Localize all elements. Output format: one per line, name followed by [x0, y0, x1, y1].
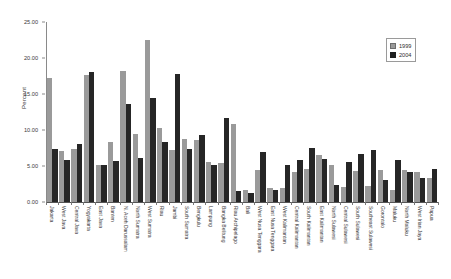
- x-axis-tick-mark: [58, 202, 59, 205]
- x-axis-category-label: Central Sulawesi: [343, 206, 349, 244]
- bar-group: [83, 22, 95, 202]
- x-axis-category-label: East Java: [98, 206, 104, 228]
- x-axis-label-cell: Riau Archipelago: [230, 206, 242, 276]
- y-axis-tick-mark: [42, 202, 45, 203]
- bar-2004: [236, 191, 241, 202]
- bar-2004: [297, 160, 302, 202]
- bar-group: [279, 22, 291, 202]
- x-axis-category-label: Lampung: [208, 206, 214, 227]
- x-axis-label-cell: Lampung: [205, 206, 217, 276]
- x-axis-category-label: Maluku: [392, 206, 398, 222]
- y-axis-tick-label: 5.00: [27, 163, 38, 169]
- x-axis-label-cell: Central Java: [71, 206, 83, 276]
- y-axis-tick-mark: [42, 22, 45, 23]
- bar-2004: [346, 162, 351, 202]
- x-axis-tick-mark: [303, 202, 304, 205]
- bar-2004: [224, 118, 229, 202]
- chart-legend: 1999 2004: [386, 38, 416, 62]
- y-axis-tick-mark: [42, 58, 45, 59]
- x-axis-category-label: Riau Archipelago: [233, 206, 239, 244]
- x-axis-category-label: North Maluku: [404, 206, 410, 236]
- legend-item-1999: 1999: [390, 41, 411, 50]
- x-axis-label-cell: South Sulawesi: [352, 206, 364, 276]
- bar-2004: [138, 158, 143, 202]
- x-axis-label-cell: Central Kalimantan: [291, 206, 303, 276]
- y-axis-tick-mark: [42, 130, 45, 131]
- x-axis-tick-mark: [279, 202, 280, 205]
- x-axis-tick-mark: [95, 202, 96, 205]
- y-axis-tick-mark: [42, 166, 45, 167]
- x-axis-label-cell: South Kalimantan: [303, 206, 315, 276]
- bar-group: [328, 22, 340, 202]
- bar-group: [242, 22, 254, 202]
- bar-2004: [150, 98, 155, 202]
- bar-group: [291, 22, 303, 202]
- bar-group: [181, 22, 193, 202]
- bar-2004: [126, 104, 131, 202]
- x-axis-tick-mark: [401, 202, 402, 205]
- bar-2004: [420, 178, 425, 202]
- bar-2004: [407, 172, 412, 202]
- x-axis-tick-mark: [144, 202, 145, 205]
- x-axis-category-label: Central Java: [74, 206, 80, 234]
- x-axis-tick-mark: [414, 202, 415, 205]
- bar-2004: [64, 160, 69, 202]
- bar-group: [340, 22, 352, 202]
- y-axis-tick-label: 10.00: [24, 127, 38, 133]
- bar-2004: [77, 144, 82, 202]
- bar-2004: [383, 180, 388, 202]
- x-axis-tick-mark: [107, 202, 108, 205]
- legend-swatch-2004-icon: [390, 52, 396, 58]
- bar-group: [230, 22, 242, 202]
- x-axis-tick-mark: [156, 202, 157, 205]
- bar-2004: [322, 159, 327, 202]
- x-axis-label-cell: East Nusa Tenggara: [267, 206, 279, 276]
- x-axis-tick-mark: [218, 202, 219, 205]
- x-axis-label-cell: South Sumatra: [181, 206, 193, 276]
- bar-group: [267, 22, 279, 202]
- x-axis-category-label: West Irian Jaya: [417, 206, 423, 240]
- x-axis-category-label: West Sumatra: [147, 206, 153, 238]
- bar-2004: [199, 135, 204, 202]
- x-axis-tick-mark: [340, 202, 341, 205]
- bar-2004: [285, 165, 290, 202]
- x-axis-label-cell: Bangka Belitung: [218, 206, 230, 276]
- x-axis-label-cell: Gorontalo: [377, 206, 389, 276]
- bar-series-container: [46, 22, 438, 202]
- x-axis-tick-mark: [389, 202, 390, 205]
- x-axis-tick-mark: [316, 202, 317, 205]
- bar-2004: [101, 165, 106, 202]
- bar-2004: [211, 165, 216, 202]
- x-axis-category-label: Gorontalo: [380, 206, 386, 228]
- x-axis-category-label: East Kalimantan: [319, 206, 325, 242]
- x-axis-category-label: West Nusa Tenggara: [257, 206, 263, 253]
- x-axis-category-label: North Sumatra: [135, 206, 141, 239]
- x-axis-tick-mark: [377, 202, 378, 205]
- bar-group: [316, 22, 328, 202]
- bar-group: [58, 22, 70, 202]
- x-axis-label-cell: Central Sulawesi: [340, 206, 352, 276]
- legend-swatch-1999-icon: [390, 43, 396, 49]
- legend-label-2004: 2004: [399, 52, 411, 58]
- bar-group: [193, 22, 205, 202]
- x-axis-category-labels: JakartaWest JavaCentral JavaYogyakartaEa…: [46, 206, 438, 276]
- x-axis-category-label: Bangka Belitung: [221, 206, 227, 242]
- x-axis-category-label: N. Aceh Darussalam: [123, 206, 129, 252]
- bar-group: [71, 22, 83, 202]
- x-axis-tick-mark: [71, 202, 72, 205]
- bar-2004: [187, 149, 192, 202]
- x-axis-category-label: Southeast Sulawesi: [368, 206, 374, 250]
- bar-2004: [175, 74, 180, 202]
- x-axis-category-label: East Nusa Tenggara: [270, 206, 276, 251]
- x-axis-label-cell: West Irian Jaya: [414, 206, 426, 276]
- x-axis-category-label: West Kalimantan: [282, 206, 288, 244]
- x-axis-label-cell: Southeast Sulawesi: [365, 206, 377, 276]
- x-axis-label-cell: East Java: [95, 206, 107, 276]
- bar-2004: [371, 150, 376, 202]
- x-axis-category-label: South Sumatra: [184, 206, 190, 239]
- x-axis-label-cell: Riau: [156, 206, 168, 276]
- bar-group: [132, 22, 144, 202]
- x-axis-category-label: North Sulawesi: [331, 206, 337, 240]
- y-axis-tick-label: 0.00: [27, 199, 38, 205]
- bar-2004: [334, 185, 339, 202]
